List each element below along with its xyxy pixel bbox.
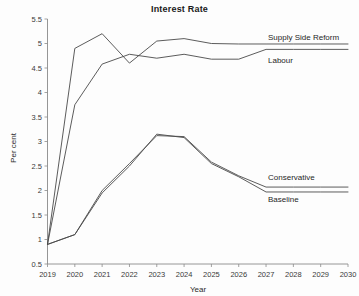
series-line-labour xyxy=(48,49,349,244)
chart-plot-area: 0.511.522.533.544.555.5 Per cent 2019202… xyxy=(0,0,359,296)
x-tick-label: 2030 xyxy=(340,270,357,279)
series-label-conservative: Conservative xyxy=(268,173,315,182)
x-tick-label: 2021 xyxy=(94,270,111,279)
series-label-supply-side-reform: Supply Side Reform xyxy=(268,33,339,42)
series-line-conservative xyxy=(48,136,349,245)
y-tick-label: 4 xyxy=(38,88,42,97)
x-tick-label: 2025 xyxy=(203,270,220,279)
y-tick-label: 3 xyxy=(38,137,42,146)
x-tick-marks xyxy=(48,264,349,267)
x-tick-label: 2028 xyxy=(285,270,302,279)
x-tick-label: 2020 xyxy=(66,270,83,279)
y-axis: 0.511.522.533.544.555.5 Per cent xyxy=(9,15,48,269)
series-label-labour: Labour xyxy=(268,56,293,65)
y-axis-title: Per cent xyxy=(9,132,18,163)
x-tick-label: 2027 xyxy=(258,270,275,279)
series-line-supply-side-reform xyxy=(48,34,349,245)
y-tick-label: 0.5 xyxy=(32,260,42,269)
x-tick-label: 2024 xyxy=(176,270,193,279)
y-tick-label: 1.5 xyxy=(32,211,42,220)
interest-rate-chart: Interest Rate 0.511.522.533.544.555.5 Pe… xyxy=(0,0,359,296)
x-axis: 2019202020212022202320242025202620272028… xyxy=(39,264,356,294)
y-tick-label: 4.5 xyxy=(32,64,42,73)
series-line-baseline xyxy=(48,134,349,244)
series-label-baseline: Baseline xyxy=(268,195,299,204)
series-lines xyxy=(48,34,349,245)
y-tick-label: 2 xyxy=(38,186,42,195)
y-tick-label: 5.5 xyxy=(32,15,42,24)
x-tick-label: 2023 xyxy=(148,270,165,279)
y-tick-label: 3.5 xyxy=(32,113,42,122)
y-tick-label: 2.5 xyxy=(32,162,42,171)
x-axis-title: Year xyxy=(190,285,207,294)
x-tick-labels: 2019202020212022202320242025202620272028… xyxy=(39,270,356,279)
x-tick-label: 2022 xyxy=(121,270,138,279)
x-tick-label: 2029 xyxy=(312,270,329,279)
y-tick-label: 5 xyxy=(38,39,42,48)
y-tick-label: 1 xyxy=(38,235,42,244)
x-tick-label: 2019 xyxy=(39,270,56,279)
y-tick-labels: 0.511.522.533.544.555.5 xyxy=(32,15,42,269)
series-annotations: Supply Side ReformLabourConservativeBase… xyxy=(268,33,339,204)
x-tick-label: 2026 xyxy=(230,270,247,279)
